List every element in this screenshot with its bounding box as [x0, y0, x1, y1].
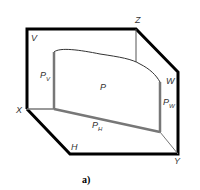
label-ph: P H: [92, 120, 103, 132]
y-diagonal-line: [160, 132, 178, 154]
label-h: H: [71, 142, 78, 152]
label-pw-sub: W: [169, 103, 176, 109]
label-ph-sub: H: [98, 126, 103, 132]
figure-caption: a): [82, 174, 90, 186]
label-pv-sub: V: [46, 76, 51, 82]
label-w: W: [166, 76, 176, 86]
projection-diagram: V Z W X Y H P P V P W P H a): [0, 0, 200, 190]
label-p: P: [100, 82, 106, 92]
label-z: Z: [134, 15, 141, 25]
surface-top-curve: [54, 49, 160, 82]
label-x: X: [15, 105, 23, 115]
ph-projection-line: [54, 109, 160, 132]
label-y: Y: [174, 156, 181, 166]
label-pw: P W: [163, 97, 176, 109]
label-pv: P V: [40, 70, 51, 82]
label-v: V: [31, 33, 38, 43]
